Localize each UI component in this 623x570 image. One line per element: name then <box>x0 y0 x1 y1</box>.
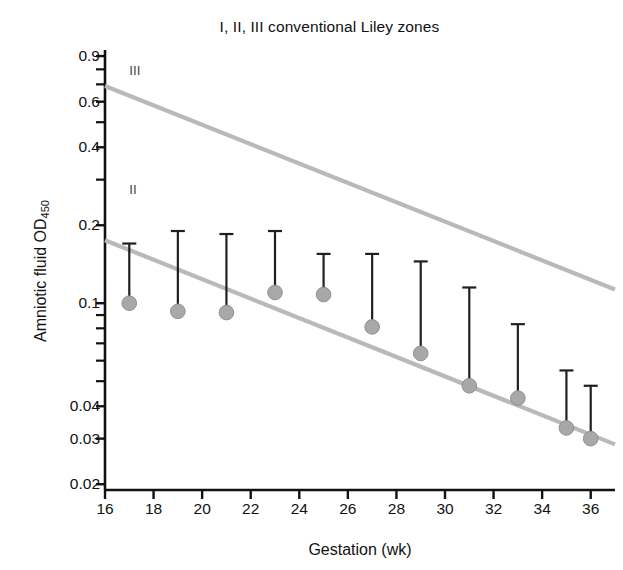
data-point-marker <box>559 421 574 436</box>
data-point-marker <box>511 391 526 406</box>
plot-canvas <box>0 0 623 570</box>
zone-boundary-line-I-II <box>105 240 615 444</box>
data-point-marker <box>413 346 428 361</box>
chart-figure: I, II, III conventional Liley zones Amni… <box>0 0 623 570</box>
data-point-marker <box>219 305 234 320</box>
data-point-marker <box>462 378 477 393</box>
zone-boundary-line-II-III <box>105 86 615 289</box>
data-point-marker <box>268 285 283 300</box>
data-point-marker <box>316 287 331 302</box>
data-point-marker <box>583 431 598 446</box>
data-point-marker <box>365 320 380 335</box>
data-point-marker <box>171 304 186 319</box>
data-point-marker <box>122 296 137 311</box>
